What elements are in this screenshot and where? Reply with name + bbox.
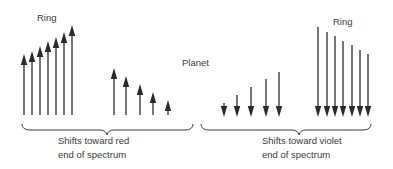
up-arrow-icon [21,54,27,115]
violet-shift-caption-line2: end of spectrum [262,148,342,162]
down-arrow-icon [349,45,355,117]
red-shift-caption-line1: Shifts toward red [58,134,129,148]
up-arrow-icon [137,84,143,115]
ring-right-blueshift-arrows [315,27,371,117]
doppler-ring-planet-diagram: Ring Planet Ring Shifts toward red end o… [0,0,393,169]
red-shift-caption: Shifts toward red end of spectrum [58,134,129,162]
up-arrow-icon [37,46,43,115]
down-arrow-icon [221,103,227,117]
down-arrow-icon [357,50,363,117]
up-arrow-icon [150,92,156,115]
up-arrow-icon [45,41,51,115]
down-arrow-icon [315,27,321,117]
up-arrow-icon [123,76,129,115]
down-arrow-icon [324,32,330,117]
down-arrow-icon [248,87,254,117]
up-arrow-icon [53,37,59,115]
violet-shift-caption: Shifts toward violet end of spectrum [262,134,342,162]
ring-left-label: Ring [37,13,57,23]
up-arrow-icon [69,25,75,115]
planet-right-blueshift-arrows [221,72,282,117]
down-arrow-icon [332,36,338,117]
ring-right-label: Ring [333,17,353,27]
up-arrow-icon [165,100,171,115]
down-arrow-icon [234,95,240,117]
red-shift-caption-line2: end of spectrum [58,148,129,162]
down-arrow-icon [276,72,282,117]
up-arrow-icon [29,51,35,115]
down-arrow-icon [340,41,346,117]
up-arrow-icon [61,32,67,115]
down-arrow-icon [365,54,371,117]
ring-left-redshift-arrows [21,25,75,115]
violet-shift-caption-line1: Shifts toward violet [262,134,342,148]
planet-left-redshift-arrows [111,68,171,115]
up-arrow-icon [111,68,117,115]
planet-label: Planet [182,58,209,68]
down-arrow-icon [263,79,269,117]
